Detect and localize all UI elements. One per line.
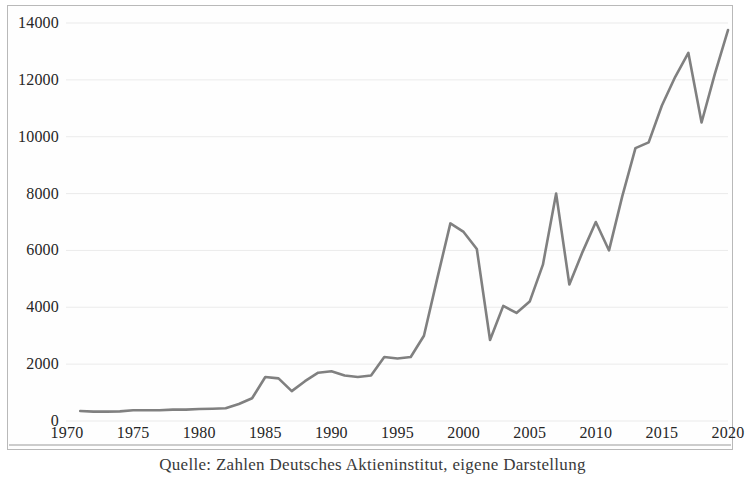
y-tick-label-4000: 4000 [7, 299, 59, 315]
x-tick-label-2020: 2020 [700, 425, 745, 441]
figure-caption: Quelle: Zahlen Deutsches Aktieninstitut,… [0, 455, 745, 475]
line-chart-svg [8, 6, 732, 449]
x-tick-label-1985: 1985 [237, 425, 293, 441]
y-tick-label-14000: 14000 [7, 15, 59, 31]
x-tick-label-2000: 2000 [436, 425, 492, 441]
x-tick-label-1995: 1995 [370, 425, 426, 441]
x-tick-label-1980: 1980 [171, 425, 227, 441]
gridline-group [66, 23, 728, 421]
x-tick-label-1970: 1970 [39, 425, 95, 441]
x-tick-label-2015: 2015 [634, 425, 690, 441]
y-tick-label-2000: 2000 [7, 356, 59, 372]
chart-plot-frame: 02000400060008000100001200014000 1970197… [7, 5, 733, 450]
y-tick-label-6000: 6000 [7, 242, 59, 258]
x-tick-label-1990: 1990 [303, 425, 359, 441]
y-tick-label-12000: 12000 [7, 72, 59, 88]
x-tick-label-2010: 2010 [568, 425, 624, 441]
figure-container: 02000400060008000100001200014000 1970197… [0, 0, 745, 478]
data-line-group [80, 30, 728, 412]
y-tick-label-10000: 10000 [7, 129, 59, 145]
x-tick-label-1975: 1975 [105, 425, 161, 441]
y-tick-label-8000: 8000 [7, 186, 59, 202]
series-line-aktionaere [80, 30, 728, 412]
x-tick-label-2005: 2005 [502, 425, 558, 441]
